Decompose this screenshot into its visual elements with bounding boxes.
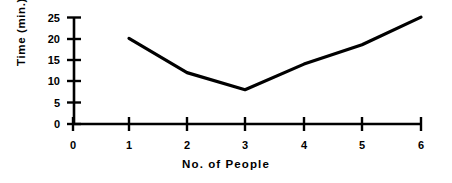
y-tick-label-20: 20 <box>38 34 60 45</box>
x-tick-label-3: 3 <box>242 140 248 151</box>
data-series-line <box>129 17 421 90</box>
x-tick-label-6: 6 <box>418 140 424 151</box>
y-tick-label-5: 5 <box>38 97 60 108</box>
x-tick-label-5: 5 <box>359 140 365 151</box>
y-axis-title: Time (min.) <box>15 0 27 87</box>
x-tick-label-1: 1 <box>126 140 132 151</box>
y-tick-label-15: 15 <box>38 55 60 66</box>
y-tick-label-25: 25 <box>38 13 60 24</box>
x-tick-label-2: 2 <box>184 140 190 151</box>
line-chart-figure: 25 20 15 10 5 0 0 1 2 3 4 5 6 No. of Peo… <box>0 0 452 183</box>
y-tick-label-0: 0 <box>38 119 60 130</box>
chart-plot-area <box>0 0 452 183</box>
x-tick-label-4: 4 <box>301 140 307 151</box>
x-axis-title: No. of People <box>0 158 452 170</box>
x-tick-label-0: 0 <box>70 140 76 151</box>
y-tick-label-10: 10 <box>38 76 60 87</box>
